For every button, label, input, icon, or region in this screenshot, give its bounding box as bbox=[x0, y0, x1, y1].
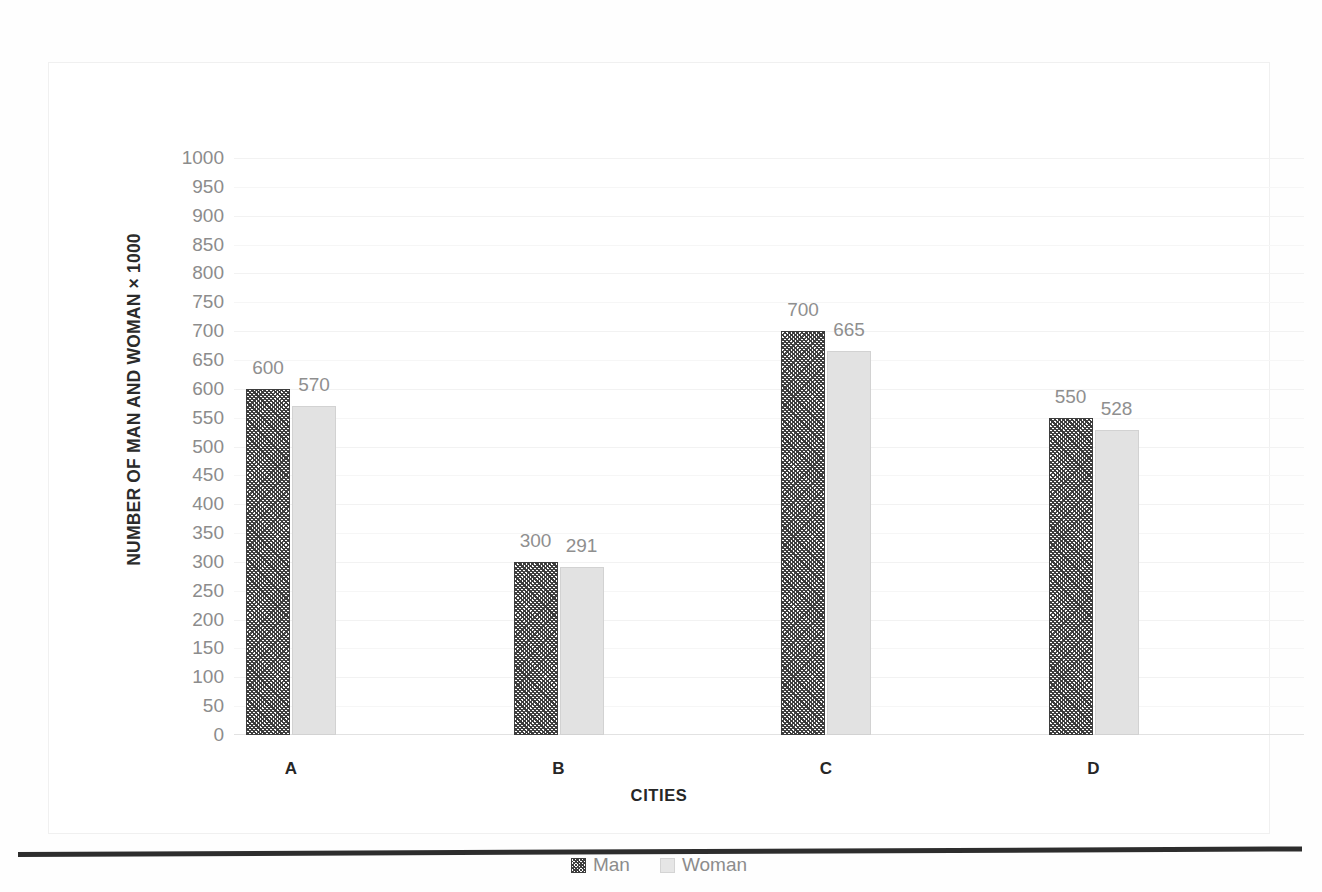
scanned-page: NUMBER OF MAN AND WOMAN × 1000 050100150… bbox=[0, 0, 1322, 892]
y-axis-tick-label: 200 bbox=[156, 609, 224, 631]
y-axis-tick-label: 150 bbox=[156, 637, 224, 659]
category-label-d: D bbox=[1087, 759, 1099, 779]
gridline bbox=[234, 591, 1304, 592]
y-axis-tick-label: 250 bbox=[156, 580, 224, 602]
y-axis-tick-label: 900 bbox=[156, 205, 224, 227]
bar-value-label: 528 bbox=[1101, 398, 1133, 420]
bar-value-label: 300 bbox=[520, 530, 552, 552]
legend-item-man[interactable]: Man bbox=[571, 854, 630, 876]
bar-value-label: 291 bbox=[566, 535, 598, 557]
bar-value-label: 665 bbox=[833, 319, 865, 341]
bar-woman-c[interactable] bbox=[827, 351, 871, 735]
y-axis-tick-label: 800 bbox=[156, 262, 224, 284]
gridline bbox=[234, 158, 1304, 159]
gridline bbox=[234, 504, 1304, 505]
y-axis-tick-label: 700 bbox=[156, 320, 224, 342]
category-label-a: A bbox=[285, 759, 297, 779]
legend-label: Woman bbox=[682, 854, 747, 876]
y-axis-tick-label: 300 bbox=[156, 551, 224, 573]
y-axis-tick-label: 1000 bbox=[156, 147, 224, 169]
y-axis-tick-label: 600 bbox=[156, 378, 224, 400]
y-axis-tick-label: 650 bbox=[156, 349, 224, 371]
gridline bbox=[234, 331, 1304, 332]
bar-value-label: 570 bbox=[298, 374, 330, 396]
gridline bbox=[234, 706, 1304, 707]
x-axis-line bbox=[234, 734, 1304, 735]
x-axis-title: CITIES bbox=[49, 786, 1269, 805]
man-pattern-swatch bbox=[571, 858, 586, 873]
category-label-b: B bbox=[552, 759, 564, 779]
y-axis-tick-label: 400 bbox=[156, 493, 224, 515]
gridline bbox=[234, 533, 1304, 534]
legend-label: Man bbox=[593, 854, 630, 876]
gridline bbox=[234, 475, 1304, 476]
gridline bbox=[234, 187, 1304, 188]
bar-man-c[interactable] bbox=[781, 331, 825, 735]
y-axis-tick-label: 750 bbox=[156, 291, 224, 313]
bar-value-label: 550 bbox=[1055, 386, 1087, 408]
bar-woman-d[interactable] bbox=[1095, 430, 1139, 735]
bar-value-label: 600 bbox=[252, 357, 284, 379]
legend-item-woman[interactable]: Woman bbox=[660, 854, 747, 876]
bar-man-b[interactable] bbox=[514, 562, 558, 735]
gridline bbox=[234, 447, 1304, 448]
gridline bbox=[234, 216, 1304, 217]
woman-solid-swatch bbox=[660, 858, 675, 873]
gridline bbox=[234, 562, 1304, 563]
y-axis-tick-label: 350 bbox=[156, 522, 224, 544]
y-axis-tick-label: 850 bbox=[156, 234, 224, 256]
gridline bbox=[234, 245, 1304, 246]
gridline bbox=[234, 677, 1304, 678]
y-axis-tick-label: 50 bbox=[156, 695, 224, 717]
chart-legend: ManWoman bbox=[49, 854, 1269, 876]
gridline bbox=[234, 648, 1304, 649]
chart-frame: NUMBER OF MAN AND WOMAN × 1000 050100150… bbox=[48, 62, 1270, 834]
gridline bbox=[234, 273, 1304, 274]
gridline bbox=[234, 360, 1304, 361]
y-axis-title: NUMBER OF MAN AND WOMAN × 1000 bbox=[119, 63, 149, 735]
bar-value-label: 700 bbox=[787, 299, 819, 321]
y-axis-tick-label: 100 bbox=[156, 666, 224, 688]
gridline bbox=[234, 418, 1304, 419]
y-axis-title-text: NUMBER OF MAN AND WOMAN × 1000 bbox=[124, 233, 145, 566]
y-axis-tick-label: 550 bbox=[156, 407, 224, 429]
y-axis-tick-label: 950 bbox=[156, 176, 224, 198]
bar-man-a[interactable] bbox=[246, 389, 290, 735]
plot-area: 600570300291700665550528 bbox=[234, 158, 1304, 735]
category-label-c: C bbox=[820, 759, 832, 779]
bar-woman-a[interactable] bbox=[292, 406, 336, 735]
gridline bbox=[234, 302, 1304, 303]
y-axis-tick-label: 0 bbox=[156, 724, 224, 746]
gridline bbox=[234, 620, 1304, 621]
bar-woman-b[interactable] bbox=[560, 567, 604, 735]
y-axis-tick-label: 450 bbox=[156, 464, 224, 486]
y-axis-tick-label: 500 bbox=[156, 436, 224, 458]
bar-man-d[interactable] bbox=[1049, 418, 1093, 735]
gridline bbox=[234, 389, 1304, 390]
